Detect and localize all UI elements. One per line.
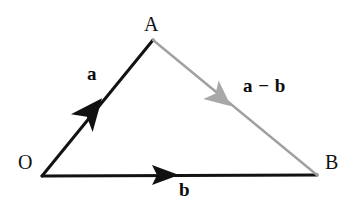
- triangle-vector-graphic: [0, 0, 354, 207]
- vertex-label-b: B: [325, 152, 338, 172]
- vertex-label-o: O: [18, 152, 32, 172]
- vector-label-b: b: [179, 180, 190, 199]
- vertex-label-a: A: [144, 14, 158, 34]
- segment-ab: [153, 40, 317, 175]
- vector-label-a: a: [87, 64, 97, 83]
- vector-diagram: A O B a b a − b: [0, 0, 354, 207]
- segment-ob: [42, 175, 317, 176]
- vector-label-a-minus-b: a − b: [243, 76, 286, 95]
